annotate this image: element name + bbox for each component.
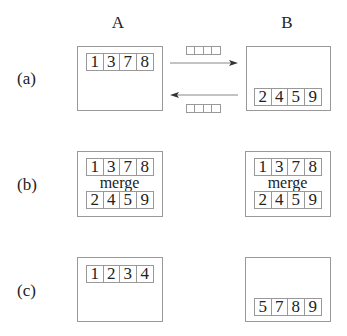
array-cell: 9 [305, 192, 321, 208]
array-cell: 9 [137, 192, 153, 208]
array-cell: 7 [272, 299, 289, 315]
arrow-right-icon [170, 60, 238, 66]
array-cell: 3 [120, 266, 137, 282]
array-cell: 1 [255, 159, 272, 175]
array-cell: 2 [255, 192, 272, 208]
array-b-bottom: 2 4 5 9 [254, 191, 322, 209]
array-cell: 2 [87, 192, 104, 208]
array-cell: 4 [137, 266, 153, 282]
merge-label: merge [86, 176, 153, 190]
array-cell: 9 [305, 299, 321, 315]
array-a: 1 2 3 4 [86, 265, 154, 283]
array-cell: 8 [288, 299, 305, 315]
array-cell: 8 [137, 159, 153, 175]
array-cell: 4 [272, 192, 289, 208]
array-cell: 7 [288, 159, 305, 175]
array-cell: 5 [288, 192, 305, 208]
array-cell: 4 [104, 192, 121, 208]
process-a-box-row-b: 1 3 7 8 merge 2 4 5 9 [77, 151, 163, 217]
array-a-bottom: 2 4 5 9 [86, 191, 154, 209]
array-cell: 2 [104, 266, 121, 282]
array-cell: 1 [87, 266, 104, 282]
array-cell: 1 [87, 159, 104, 175]
array-cell: 8 [305, 159, 321, 175]
process-a-box-row-c: 1 2 3 4 [77, 257, 163, 322]
array-cell: 3 [104, 159, 121, 175]
process-b-box-row-c: 5 7 8 9 [245, 257, 331, 322]
array-cell: 7 [120, 159, 137, 175]
process-b-box-row-b: 1 3 7 8 merge 2 4 5 9 [245, 151, 331, 217]
array-cell: 5 [255, 299, 272, 315]
arrow-left-icon [170, 92, 238, 98]
array-b: 5 7 8 9 [254, 298, 322, 316]
array-cell: 5 [120, 192, 137, 208]
merge-label: merge [254, 176, 321, 190]
array-cell: 3 [272, 159, 289, 175]
